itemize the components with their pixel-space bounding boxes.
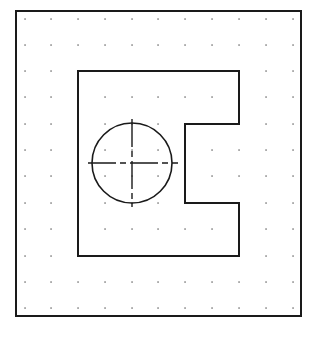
- grid-dot: [104, 202, 105, 203]
- grid-dot: [265, 18, 266, 19]
- grid-dot: [211, 18, 212, 19]
- grid-dot: [50, 307, 51, 308]
- grid-dot: [184, 18, 185, 19]
- grid-dot: [292, 123, 293, 124]
- grid-dot: [265, 96, 266, 97]
- grid-dot: [77, 307, 78, 308]
- grid-dot: [24, 175, 25, 176]
- grid-dot: [265, 202, 266, 203]
- grid-dot: [104, 96, 105, 97]
- grid-dot: [184, 281, 185, 282]
- grid-dot: [265, 175, 266, 176]
- grid-dot: [265, 307, 266, 308]
- grid-dot: [131, 149, 132, 150]
- grid-dot: [131, 307, 132, 308]
- grid-dot: [292, 70, 293, 71]
- grid-dot: [184, 44, 185, 45]
- grid-dot: [24, 255, 25, 256]
- grid-dot: [238, 18, 239, 19]
- grid-dot: [265, 70, 266, 71]
- grid-dot: [211, 281, 212, 282]
- grid-dot: [265, 255, 266, 256]
- grid-dot: [157, 281, 158, 282]
- grid-dot: [184, 96, 185, 97]
- grid-dot: [157, 96, 158, 97]
- grid-dot: [104, 175, 105, 176]
- grid-dot: [265, 228, 266, 229]
- grid-dots: [24, 18, 293, 308]
- grid-dot: [50, 175, 51, 176]
- grid-dot: [157, 202, 158, 203]
- grid-dot: [265, 44, 266, 45]
- grid-dot: [211, 228, 212, 229]
- grid-dot: [104, 228, 105, 229]
- grid-dot: [104, 281, 105, 282]
- grid-dot: [265, 149, 266, 150]
- grid-dot: [292, 281, 293, 282]
- grid-dot: [184, 228, 185, 229]
- grid-dot: [24, 149, 25, 150]
- grid-dot: [265, 281, 266, 282]
- grid-dot: [104, 123, 105, 124]
- grid-dot: [292, 307, 293, 308]
- grid-dot: [157, 307, 158, 308]
- grid-dot: [131, 44, 132, 45]
- grid-dot: [131, 18, 132, 19]
- grid-dot: [24, 202, 25, 203]
- grid-dot: [157, 18, 158, 19]
- grid-dot: [104, 149, 105, 150]
- grid-dot: [24, 44, 25, 45]
- grid-dot: [238, 175, 239, 176]
- grid-dot: [157, 44, 158, 45]
- grid-dot: [292, 202, 293, 203]
- grid-dot: [50, 281, 51, 282]
- grid-dot: [211, 175, 212, 176]
- grid-dot: [24, 18, 25, 19]
- grid-dot: [238, 44, 239, 45]
- grid-dot: [104, 44, 105, 45]
- grid-dot: [238, 149, 239, 150]
- grid-dot: [131, 96, 132, 97]
- grid-dot: [292, 228, 293, 229]
- grid-dot: [157, 175, 158, 176]
- grid-dot: [24, 96, 25, 97]
- grid-dot: [24, 307, 25, 308]
- grid-dot: [24, 281, 25, 282]
- grid-dot: [77, 281, 78, 282]
- grid-dot: [157, 149, 158, 150]
- grid-dot: [238, 307, 239, 308]
- grid-dot: [24, 228, 25, 229]
- grid-dot: [50, 18, 51, 19]
- grid-dot: [50, 228, 51, 229]
- grid-dot: [104, 18, 105, 19]
- grid-dot: [292, 149, 293, 150]
- grid-dot: [77, 18, 78, 19]
- grid-dot: [50, 255, 51, 256]
- grid-dot: [292, 175, 293, 176]
- grid-dot: [50, 202, 51, 203]
- grid-dot: [131, 228, 132, 229]
- grid-dot: [24, 70, 25, 71]
- grid-dot: [24, 123, 25, 124]
- grid-dot: [50, 96, 51, 97]
- drawing-border: [16, 11, 301, 316]
- grid-dot: [211, 44, 212, 45]
- grid-dot: [292, 96, 293, 97]
- cad-drawing-canvas[interactable]: [0, 0, 318, 337]
- grid-dot: [211, 96, 212, 97]
- grid-dot: [157, 228, 158, 229]
- grid-dot: [211, 149, 212, 150]
- grid-dot: [50, 70, 51, 71]
- grid-dot: [292, 18, 293, 19]
- grid-dot: [292, 255, 293, 256]
- grid-dot: [131, 281, 132, 282]
- grid-dot: [238, 281, 239, 282]
- grid-dot: [50, 44, 51, 45]
- grid-dot: [184, 307, 185, 308]
- grid-dot: [50, 149, 51, 150]
- grid-dot: [265, 123, 266, 124]
- grid-dot: [157, 123, 158, 124]
- grid-dot: [211, 307, 212, 308]
- grid-dot: [50, 123, 51, 124]
- grid-dot: [77, 44, 78, 45]
